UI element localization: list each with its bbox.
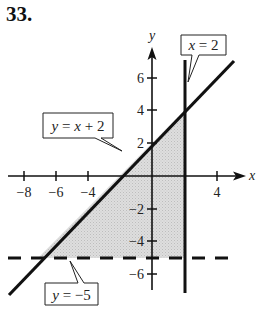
callout-x-eq-2-text: x = 2 (187, 37, 218, 53)
y-axis-label: y (147, 28, 156, 43)
graph-figure: 33. (0, 0, 264, 310)
problem-number: 33. (6, 2, 32, 27)
callout-y-eq-neg5-text: y = −5 (50, 287, 91, 303)
x-tick-label: −4 (81, 185, 96, 200)
x-axis-label: x (248, 168, 256, 183)
y-tick-label: −4 (129, 234, 144, 249)
y-tick-label: −6 (129, 267, 144, 282)
callout-y-eq-neg5: y = −5 (45, 261, 98, 305)
y-tick-label: −2 (129, 202, 144, 217)
graph-canvas: −8 −6 −4 4 6 4 2 −2 −4 −6 x y x = 2 y = … (0, 0, 264, 310)
x-tick-label: −6 (49, 185, 64, 200)
line-y-eq-x-plus-2 (9, 61, 234, 295)
y-tick-label: 6 (137, 71, 144, 86)
callout-y-eq-x-plus-2-text: y = x + 2 (50, 118, 105, 134)
x-tick-label: 4 (214, 185, 221, 200)
callout-y-eq-x-plus-2: y = x + 2 (43, 113, 122, 151)
y-tick-label: 2 (137, 136, 144, 151)
y-tick-label: 4 (137, 103, 144, 118)
x-tick-label: −8 (17, 185, 32, 200)
